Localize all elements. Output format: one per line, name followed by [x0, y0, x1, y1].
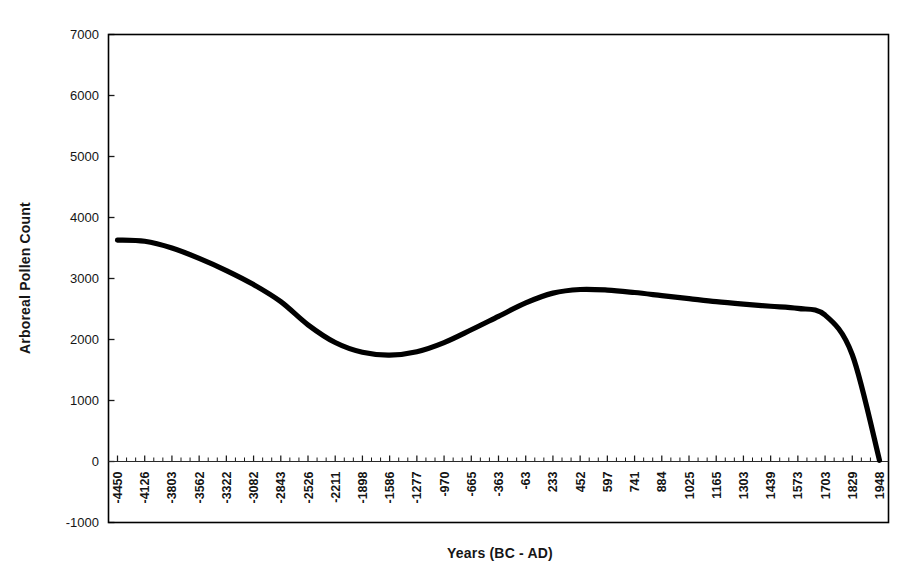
x-tick-label: 597 — [601, 471, 615, 492]
y-tick-label: 2000 — [70, 332, 99, 347]
x-tick-label: -1898 — [356, 471, 370, 503]
x-tick-label: -3322 — [220, 471, 234, 503]
x-tick-label: -4126 — [138, 471, 152, 503]
x-tick-label: 233 — [546, 471, 560, 492]
chart-figure: 70006000500040003000200010000-1000 -4450… — [0, 0, 913, 584]
x-tick-label: -665 — [465, 471, 479, 496]
y-tick-label: 1000 — [70, 393, 99, 408]
y-tick-label: 3000 — [70, 271, 99, 286]
y-axis-title: Arboreal Pollen Count — [17, 202, 33, 354]
y-tick-label: -1000 — [66, 515, 99, 530]
x-tick-label: -63 — [519, 471, 533, 489]
x-tick-label: -1277 — [410, 471, 424, 503]
x-tick-label: -1586 — [383, 471, 397, 503]
x-tick-label: 1703 — [819, 471, 833, 499]
x-tick-label: 1025 — [683, 471, 697, 499]
x-tick-label: -3082 — [247, 471, 261, 503]
x-tick-label: -363 — [492, 471, 506, 496]
x-tick-label: 1303 — [737, 471, 751, 499]
x-tick-label: 884 — [655, 471, 669, 492]
x-tick-label: -2843 — [274, 471, 288, 503]
x-tick-label: -3562 — [193, 471, 207, 503]
x-tick-label: 452 — [574, 471, 588, 492]
y-tick-label: 7000 — [70, 27, 99, 42]
x-tick-label: 1829 — [846, 471, 860, 499]
y-tick-label: 4000 — [70, 210, 99, 225]
x-tick-label: 1948 — [873, 471, 887, 499]
x-tick-label: 1439 — [764, 471, 778, 499]
x-tick-label: -3803 — [165, 471, 179, 503]
x-tick-label: -2526 — [302, 471, 316, 503]
x-tick-label: -4450 — [111, 471, 125, 503]
x-axis-title: Years (BC - AD) — [447, 545, 553, 561]
x-tick-label: -2211 — [329, 471, 343, 502]
x-tick-label: 1165 — [710, 471, 724, 498]
y-tick-label: 6000 — [70, 88, 99, 103]
y-tick-label: 5000 — [70, 149, 99, 164]
x-tick-label: 1573 — [791, 471, 805, 499]
y-tick-label: 0 — [92, 454, 99, 469]
x-tick-label: 741 — [628, 471, 642, 492]
pollen-count-line-chart: 70006000500040003000200010000-1000 -4450… — [0, 0, 913, 584]
x-tick-label: -970 — [438, 471, 452, 496]
